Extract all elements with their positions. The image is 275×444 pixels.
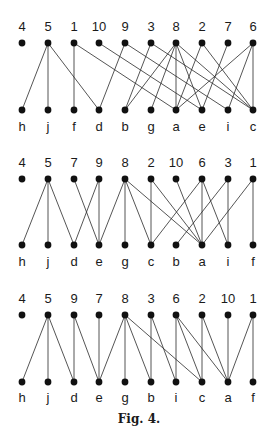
top-node-label: 10 — [221, 291, 235, 306]
top-node — [250, 176, 257, 183]
bottom-node — [250, 379, 257, 386]
edge — [99, 179, 125, 245]
bottom-node — [45, 242, 52, 249]
top-node — [45, 312, 52, 319]
bottom-node — [148, 107, 155, 114]
edge — [125, 179, 151, 245]
bottom-node — [225, 107, 232, 114]
edge — [176, 179, 202, 245]
edge — [125, 43, 151, 110]
top-node-label: 9 — [95, 155, 102, 170]
edge — [22, 315, 48, 382]
bottom-node — [71, 242, 78, 249]
bottom-node-label: h — [18, 119, 25, 134]
top-node-label: 2 — [147, 155, 154, 170]
top-node — [225, 40, 232, 47]
bottom-node-label: g — [121, 390, 128, 405]
bottom-node-label: i — [227, 254, 230, 269]
bottom-node — [173, 379, 180, 386]
edge — [99, 43, 125, 110]
bottom-node — [122, 242, 129, 249]
edge — [228, 315, 253, 382]
top-node — [173, 312, 180, 319]
bottom-node-label: h — [18, 390, 25, 405]
bottom-node-label: a — [172, 119, 180, 134]
top-node — [173, 40, 180, 47]
edge — [125, 43, 228, 110]
top-node — [199, 312, 206, 319]
bottom-node-label: a — [224, 390, 232, 405]
top-node — [96, 176, 103, 183]
edge — [202, 179, 253, 245]
top-node — [96, 40, 103, 47]
bottom-node — [199, 242, 206, 249]
top-node — [250, 312, 257, 319]
top-node — [71, 176, 78, 183]
bottom-node-label: i — [227, 119, 230, 134]
top-node — [173, 176, 180, 183]
edge — [202, 315, 228, 382]
bottom-node — [96, 379, 103, 386]
top-node — [250, 40, 257, 47]
top-node-label: 1 — [249, 291, 256, 306]
top-node-label: 4 — [18, 291, 25, 306]
bottom-node-label: d — [70, 254, 77, 269]
bottom-node — [122, 107, 129, 114]
bottom-node — [19, 379, 26, 386]
edge — [125, 315, 151, 382]
bottom-node-label: j — [46, 390, 50, 405]
edge — [48, 43, 99, 110]
bottom-node — [96, 242, 103, 249]
top-node — [19, 40, 26, 47]
top-node-label: 3 — [147, 19, 154, 34]
bottom-node-label: e — [95, 390, 102, 405]
top-node-label: 9 — [121, 19, 128, 34]
top-node — [122, 312, 129, 319]
bottom-node — [250, 242, 257, 249]
top-node-label: 6 — [249, 19, 256, 34]
edge — [48, 179, 74, 245]
bottom-node-label: j — [46, 119, 50, 134]
bottom-node-label: c — [148, 254, 155, 269]
bottom-node-label: g — [147, 119, 154, 134]
edge — [151, 43, 176, 110]
bottom-node — [96, 107, 103, 114]
graph-3: 45978362101hjdegbicaf — [18, 291, 256, 405]
bottom-node — [173, 242, 180, 249]
top-node-label: 1 — [70, 19, 77, 34]
top-node-label: 7 — [224, 19, 231, 34]
edge — [74, 43, 176, 110]
bottom-node-label: d — [70, 390, 77, 405]
edge — [151, 43, 253, 110]
edge — [202, 179, 228, 245]
bottom-node-label: a — [198, 254, 206, 269]
top-node — [45, 176, 52, 183]
top-node-label: 8 — [121, 155, 128, 170]
bottom-node-label: j — [46, 254, 50, 269]
top-node — [122, 40, 129, 47]
bipartite-graph-figure: 45110938276hjfdbgaeic45798210631hjdegcba… — [0, 0, 275, 444]
top-node — [199, 40, 206, 47]
edge — [99, 315, 125, 382]
bottom-node — [45, 107, 52, 114]
top-node — [45, 40, 52, 47]
bottom-node — [199, 379, 206, 386]
top-node-label: 8 — [121, 291, 128, 306]
bottom-node — [71, 107, 78, 114]
bottom-node — [19, 107, 26, 114]
edge — [228, 43, 253, 110]
bottom-node — [19, 242, 26, 249]
top-node — [199, 176, 206, 183]
bottom-node-label: f — [72, 119, 76, 134]
top-node-label: 4 — [18, 19, 25, 34]
top-node — [122, 176, 129, 183]
top-node-label: 7 — [95, 291, 102, 306]
bottom-node — [148, 379, 155, 386]
bottom-node-label: h — [18, 254, 25, 269]
top-node — [19, 312, 26, 319]
top-node-label: 6 — [198, 155, 205, 170]
top-node-label: 2 — [198, 19, 205, 34]
bottom-node-label: i — [175, 390, 178, 405]
top-node-label: 7 — [70, 155, 77, 170]
graph-group: 45110938276hjfdbgaeic45798210631hjdegcba… — [18, 19, 256, 405]
